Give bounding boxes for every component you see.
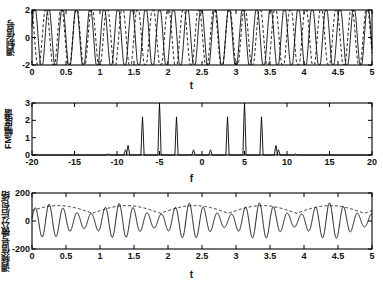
x-tick-label: 5 — [369, 251, 374, 261]
x-tick-label: 5 — [369, 67, 374, 77]
x-tick-label: 5 — [242, 157, 247, 167]
x-tick-label: 4 — [301, 67, 306, 77]
y-tick-label: 200 — [15, 188, 30, 198]
x-tick-label: 4 — [301, 251, 306, 261]
x-tick-label: 1 — [97, 251, 102, 261]
subplot-1-x-axis-label: t — [0, 80, 383, 91]
y-tick-label: 3 — [25, 98, 30, 108]
x-tick-label: 0.5 — [60, 67, 73, 77]
subplot-3-x-axis-label: t — [0, 269, 383, 280]
x-tick-label: -10 — [110, 157, 123, 167]
x-tick-label: 2.5 — [196, 67, 209, 77]
x-tick-label: -15 — [68, 157, 81, 167]
x-tick-label: -5 — [155, 157, 163, 167]
subplot-modulating-signal: 调制信号 t 00.511.522.533.544.55-202 — [0, 0, 383, 95]
y-tick-label: 0 — [25, 33, 30, 43]
subplot-2-y-axis-label: FM幅度谱 — [4, 103, 13, 155]
x-tick-label: 0 — [29, 251, 34, 261]
x-tick-label: 0 — [199, 157, 204, 167]
y-tick-label: 0 — [25, 216, 30, 226]
subplot-2-x-axis-label: f — [0, 173, 383, 184]
x-tick-label: 1.5 — [128, 67, 141, 77]
x-tick-label: 4.5 — [332, 67, 345, 77]
x-tick-label: 3 — [233, 251, 238, 261]
x-tick-label: 0 — [29, 67, 34, 77]
subplot-fm-amplitude-spectrum: FM幅度谱 f -20-15-10-5051015200123 — [0, 95, 383, 187]
x-tick-label: 4.5 — [332, 251, 345, 261]
y-tick-label: 2 — [25, 115, 30, 125]
x-tick-label: 10 — [282, 157, 292, 167]
x-tick-label: 3 — [233, 67, 238, 77]
x-tick-label: 20 — [367, 157, 377, 167]
subplot-1-y-axis-label: 调制信号 — [6, 12, 15, 64]
x-tick-label: 2 — [165, 67, 170, 77]
x-tick-label: 2.5 — [196, 251, 209, 261]
x-tick-label: 1 — [97, 67, 102, 77]
matlab-figure: 调制信号 t 00.511.522.533.544.55-202 FM幅度谱 f… — [0, 0, 383, 286]
x-tick-label: 3.5 — [264, 67, 277, 77]
x-tick-label: 2 — [165, 251, 170, 261]
y-tick-label: -200 — [12, 244, 30, 254]
x-tick-label: 1.5 — [128, 251, 141, 261]
y-tick-label: -2 — [22, 60, 30, 70]
subplot-3-y-axis-label: 调频信号微分后包络 — [1, 184, 10, 280]
x-tick-label: 0.5 — [60, 251, 73, 261]
x-tick-label: 15 — [324, 157, 334, 167]
y-tick-label: 0 — [25, 150, 30, 160]
y-tick-label: 1 — [25, 133, 30, 143]
x-tick-label: 3.5 — [264, 251, 277, 261]
subplot-fm-differentiated-envelope: 调频信号微分后包络 t 00.511.522.533.544.55-200020… — [0, 187, 383, 286]
y-tick-label: 2 — [25, 5, 30, 15]
